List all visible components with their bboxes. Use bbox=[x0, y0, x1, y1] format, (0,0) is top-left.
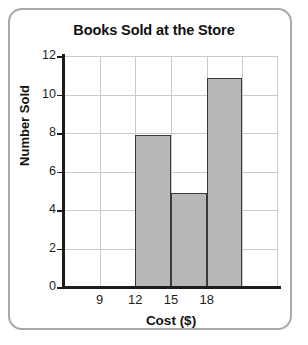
y-tick-label: 10 bbox=[28, 87, 56, 101]
gridline-vertical bbox=[100, 56, 101, 287]
x-tick-label: 18 bbox=[190, 292, 224, 307]
y-tick-mark bbox=[57, 210, 63, 212]
x-tick-label: 9 bbox=[83, 292, 117, 307]
y-tick-label: 12 bbox=[28, 48, 56, 62]
bar bbox=[135, 135, 171, 287]
x-tick-label: 12 bbox=[118, 292, 152, 307]
y-tick-label: 2 bbox=[28, 241, 56, 255]
y-tick-label: 6 bbox=[28, 164, 56, 178]
y-tick-mark bbox=[57, 95, 63, 97]
plot-right-border bbox=[277, 56, 278, 287]
y-tick-mark bbox=[57, 172, 63, 174]
x-axis-line bbox=[62, 286, 281, 289]
gridline-vertical bbox=[242, 56, 243, 287]
y-tick-label: 8 bbox=[28, 125, 56, 139]
y-tick-mark bbox=[57, 249, 63, 251]
bar bbox=[171, 193, 207, 287]
y-tick-mark bbox=[57, 133, 63, 135]
x-axis-title: Cost ($) bbox=[64, 313, 278, 328]
x-tick-label: 15 bbox=[154, 292, 188, 307]
y-tick-label: 0 bbox=[28, 279, 56, 293]
y-tick-mark bbox=[57, 56, 63, 58]
y-tick-mark bbox=[57, 287, 63, 289]
bar bbox=[207, 78, 243, 287]
plot-area bbox=[64, 56, 278, 287]
y-tick-label: 4 bbox=[28, 202, 56, 216]
chart-title: Books Sold at the Store bbox=[0, 22, 308, 38]
